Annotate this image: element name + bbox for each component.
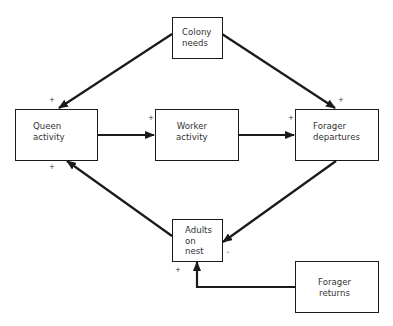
feedback-diagram: Colony needs Queen activity Worker activ…	[0, 0, 393, 326]
sign-colony-to-forager: +	[338, 97, 344, 104]
edge-colony-needs-to-queen-activity	[59, 34, 172, 108]
node-label: Colony needs	[182, 27, 211, 48]
node-worker-activity: Worker activity	[155, 109, 239, 161]
edge-colony-needs-to-forager-departures	[222, 34, 335, 108]
sign-queen-to-worker: +	[148, 115, 154, 122]
node-label: Forager returns	[318, 277, 351, 298]
node-label: Queen activity	[33, 121, 65, 142]
node-label: Adults on nest	[185, 225, 212, 257]
sign-returns-to-adults: +	[175, 267, 181, 274]
sign-forager-to-adults: –	[226, 249, 230, 256]
edge-forager-departures-to-adults-on-nest	[223, 161, 336, 242]
sign-adults-to-queen: +	[49, 164, 55, 171]
sign-worker-to-forager: +	[288, 115, 294, 122]
edge-adults-on-nest-to-queen-activity	[67, 161, 172, 236]
edge-forager-returns-to-adults-on-nest	[197, 262, 295, 287]
node-forager-departures: Forager departures	[295, 109, 379, 161]
node-label: Worker activity	[176, 121, 208, 142]
node-adults-on-nest: Adults on nest	[172, 219, 223, 262]
node-forager-returns: Forager returns	[295, 261, 379, 313]
node-queen-activity: Queen activity	[15, 109, 98, 161]
node-label: Forager departures	[313, 121, 360, 142]
sign-colony-to-queen: +	[49, 97, 55, 104]
node-colony-needs: Colony needs	[172, 17, 223, 59]
